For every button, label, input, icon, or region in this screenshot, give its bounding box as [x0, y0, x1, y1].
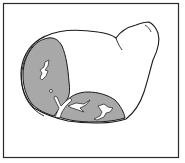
- illustration-canvas: [0, 0, 185, 163]
- small-cavity: [50, 90, 53, 93]
- illustration: [0, 0, 185, 163]
